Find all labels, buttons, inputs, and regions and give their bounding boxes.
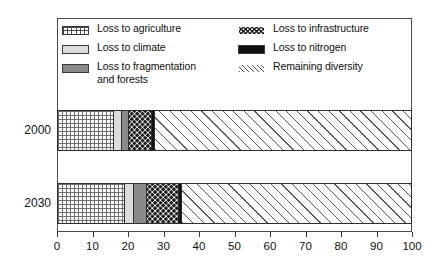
x-tick-80 [341,232,342,237]
chart-legend: Loss to agriculture Loss to climate Loss… [62,22,410,94]
x-tick-50 [235,232,236,237]
x-tick-label-20: 20 [122,240,135,252]
mid-gray-swatch-icon [62,64,89,73]
x-tick-100 [412,232,413,237]
legend-label-agriculture: Loss to agriculture [97,22,181,35]
segment-agriculture [58,184,125,223]
x-tick-70 [306,232,307,237]
segment-remaining-diversity [155,111,411,150]
segment-climate [114,111,121,150]
legend-label-climate: Loss to climate [97,41,166,54]
segment-agriculture [58,111,114,150]
dots-swatch-icon [238,26,265,35]
x-axis-ticks [57,232,412,238]
segment-fragmentation [122,111,129,150]
x-tick-90 [377,232,378,237]
bar-2030 [57,183,412,224]
segment-climate [125,184,133,223]
legend-label-nitrogen: Loss to nitrogen [273,41,346,54]
x-tick-60 [270,232,271,237]
x-tick-label-60: 60 [264,240,277,252]
legend-column-left: Loss to agriculture Loss to climate Loss… [62,22,238,94]
segment-infrastructure [147,184,179,223]
x-tick-label-90: 90 [370,240,383,252]
y-tick-label-2030: 2030 [5,196,51,210]
legend-item-remaining-diversity: Remaining diversity [238,60,410,78]
x-tick-label-10: 10 [86,240,99,252]
grid-swatch-icon [62,26,89,35]
segment-fragmentation [134,184,148,223]
segment-remaining-diversity [182,184,411,223]
light-gray-swatch-icon [62,45,89,54]
legend-label-infrastructure: Loss to infrastructure [273,22,369,35]
x-tick-0 [57,232,58,237]
x-tick-40 [199,232,200,237]
y-tick-label-2000: 2000 [5,123,51,137]
x-tick-10 [93,232,94,237]
legend-item-fragmentation: Loss to fragmentation and forests [62,60,238,92]
x-tick-label-100: 100 [402,240,421,252]
x-tick-label-40: 40 [193,240,206,252]
legend-label-remaining-diversity: Remaining diversity [273,60,363,73]
x-tick-label-80: 80 [335,240,348,252]
legend-label-fragmentation: Loss to fragmentation and forests [97,60,196,86]
black-swatch-icon [238,45,265,54]
legend-item-climate: Loss to climate [62,41,238,59]
bar-2000 [57,110,412,151]
segment-infrastructure [129,111,152,150]
stacked-bar-chart: Loss to agriculture Loss to climate Loss… [0,0,441,273]
x-tick-label-0: 0 [54,240,60,252]
hatch-swatch-icon [238,64,265,73]
x-tick-20 [128,232,129,237]
x-tick-30 [164,232,165,237]
legend-item-agriculture: Loss to agriculture [62,22,238,40]
legend-column-right: Loss to infrastructure Loss to nitrogen … [238,22,410,94]
x-tick-label-50: 50 [228,240,241,252]
x-tick-label-70: 70 [299,240,312,252]
legend-item-infrastructure: Loss to infrastructure [238,22,410,40]
x-tick-label-30: 30 [157,240,170,252]
legend-item-nitrogen: Loss to nitrogen [238,41,410,59]
